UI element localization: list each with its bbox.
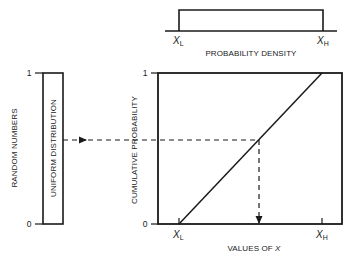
random-numbers-axis-label: RANDOM NUMBERS xyxy=(10,108,19,187)
density-rectangle xyxy=(179,10,323,31)
cdf-line xyxy=(179,73,322,224)
uniform-tick-0: 0 xyxy=(27,219,32,229)
cdf-tick-0: 0 xyxy=(143,219,148,229)
cdf-x-low-label: XL xyxy=(172,229,184,241)
density-title: PROBABILITY DENSITY xyxy=(205,49,297,58)
values-of-x-axis-label: VALUES OF X xyxy=(228,244,282,253)
cdf-x-high-label: XH xyxy=(315,229,328,241)
cumulative-probability-panel: CUMULATIVE PROBABILITY 1 0 XL XH VALUES … xyxy=(130,68,342,253)
uniform-tick-1: 1 xyxy=(27,68,32,78)
density-x-high-label: XH xyxy=(316,35,329,47)
probability-density-panel: XL XH PROBABILITY DENSITY xyxy=(165,10,337,58)
cumulative-probability-axis-label: CUMULATIVE PROBABILITY xyxy=(130,96,139,204)
uniform-distribution-label: UNIFORM DISTRIBUTION xyxy=(49,99,58,197)
density-x-low-label: XL xyxy=(172,35,184,47)
inverse-transform-sampling-diagram: XL XH PROBABILITY DENSITY RANDOM NUMBERS… xyxy=(0,0,354,259)
uniform-distribution-panel: RANDOM NUMBERS 1 0 UNIFORM DISTRIBUTION xyxy=(10,68,63,229)
mapping-arrows xyxy=(63,140,259,223)
cdf-tick-1: 1 xyxy=(143,68,148,78)
